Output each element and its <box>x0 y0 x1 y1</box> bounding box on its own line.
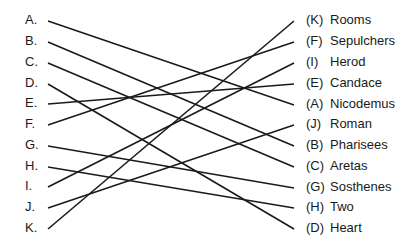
right-item-word: Pharisees <box>330 138 388 152</box>
right-item-word: Roman <box>330 117 372 131</box>
left-item-label: D. <box>25 76 38 90</box>
right-item-word: Rooms <box>330 13 371 27</box>
connection-line <box>48 167 294 208</box>
connection-line <box>48 125 294 208</box>
right-item-word: Two <box>330 200 354 214</box>
connection-line <box>48 42 294 125</box>
right-item-word: Heart <box>330 221 362 235</box>
left-item-label: E. <box>25 96 37 110</box>
left-item-label: H. <box>25 159 38 173</box>
left-item-label: F. <box>25 117 35 131</box>
right-item-word: Sepulchers <box>330 34 395 48</box>
right-item: (K)Rooms <box>306 13 371 27</box>
right-item-word: Candace <box>330 76 382 90</box>
right-item-letter: (D) <box>306 221 330 235</box>
right-item: (B)Pharisees <box>306 138 388 152</box>
left-item-label: K. <box>25 221 37 235</box>
connection-line <box>48 21 294 229</box>
right-item-word: Aretas <box>330 159 368 173</box>
connection-line <box>48 84 294 104</box>
left-item-label: B. <box>25 34 37 48</box>
right-item-letter: (K) <box>306 13 330 27</box>
right-item-letter: (C) <box>306 159 330 173</box>
left-item-label: J. <box>25 200 35 214</box>
right-item: (J)Roman <box>306 117 372 131</box>
right-item-letter: (A) <box>306 97 330 111</box>
right-item: (I)Herod <box>306 55 365 69</box>
matching-diagram: A.B.C.D.E.F.G.H.I.J.K. (K)Rooms(F)Sepulc… <box>0 0 412 252</box>
right-item: (D)Heart <box>306 221 362 235</box>
left-item-label: I. <box>25 179 32 193</box>
right-item: (E)Candace <box>306 76 382 90</box>
right-item-letter: (J) <box>306 117 330 131</box>
connection-line <box>48 63 294 167</box>
right-item-letter: (F) <box>306 34 330 48</box>
right-item-word: Herod <box>330 55 365 69</box>
right-item: (H)Two <box>306 200 354 214</box>
right-item-letter: (E) <box>306 76 330 90</box>
left-item-label: A. <box>25 13 37 27</box>
right-item: (C)Aretas <box>306 159 368 173</box>
right-item-letter: (H) <box>306 200 330 214</box>
connection-line <box>48 21 294 105</box>
left-item-label: C. <box>25 55 38 69</box>
left-item-label: G. <box>25 138 39 152</box>
right-item-word: Sosthenes <box>330 180 391 194</box>
right-item-letter: (I) <box>306 55 330 69</box>
right-item-letter: (B) <box>306 138 330 152</box>
connection-line <box>48 84 294 229</box>
right-item-letter: (G) <box>306 180 330 194</box>
right-item: (F)Sepulchers <box>306 34 395 48</box>
right-item: (G)Sosthenes <box>306 180 391 194</box>
right-item: (A)Nicodemus <box>306 97 395 111</box>
right-item-word: Nicodemus <box>330 97 395 111</box>
